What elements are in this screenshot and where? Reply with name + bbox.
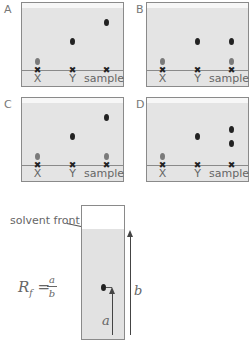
tlc-plate-d: ✖ ✖ ✖ X Y sample <box>146 97 249 182</box>
spot-y <box>195 38 200 45</box>
distance-b-arrow <box>130 236 131 335</box>
spot-sample <box>229 38 234 45</box>
panel-label-a: A <box>4 3 12 16</box>
solvent-front-label: solvent front <box>10 214 80 227</box>
spot-sample <box>229 126 234 133</box>
lane-label-sample: sample <box>84 167 124 180</box>
spot-sample <box>104 19 109 26</box>
spot-sample <box>104 114 109 121</box>
formula-r: R <box>18 278 29 296</box>
fraction-denominator: b <box>47 288 57 299</box>
spot-y <box>70 133 75 140</box>
distance-a-label: a <box>102 313 110 328</box>
spot-sample <box>104 153 109 160</box>
solvent-front-band <box>147 3 248 8</box>
panel-label-c: C <box>4 98 12 111</box>
panel-label-d: D <box>136 98 144 111</box>
spot-sample <box>229 140 234 147</box>
lane-label-y: Y <box>67 72 78 85</box>
lane-label-x: X <box>157 72 168 85</box>
spot-y <box>70 38 75 45</box>
fraction-numerator: a <box>47 274 57 285</box>
panel-label-b: B <box>136 3 144 16</box>
spot-x <box>35 58 40 65</box>
tlc-plate-b: ✖ ✖ ✖ X Y sample <box>146 2 249 87</box>
lane-label-x: X <box>32 72 43 85</box>
lane-label-sample: sample <box>209 167 249 180</box>
fraction-bar <box>47 286 57 287</box>
lane-label-x: X <box>157 167 168 180</box>
spot-y <box>195 133 200 140</box>
lane-label-x: X <box>32 167 43 180</box>
spot-x <box>35 153 40 160</box>
spot-sample <box>229 58 234 65</box>
solvent-front-band <box>22 3 123 8</box>
tlc-plate-a: ✖ ✖ ✖ X Y sample <box>21 2 124 87</box>
spot-x <box>160 153 165 160</box>
distance-a-arrow <box>112 292 113 335</box>
rf-fraction: a b <box>47 274 57 299</box>
arrowhead-b-icon <box>127 230 133 237</box>
lane-label-y: Y <box>192 72 203 85</box>
lane-label-y: Y <box>67 167 78 180</box>
distance-b-label: b <box>134 283 142 298</box>
rf-formula: Rf = <box>18 278 50 298</box>
solvent-front-band <box>22 98 123 103</box>
arrowhead-a-icon <box>109 287 115 294</box>
lane-label-y: Y <box>192 167 203 180</box>
lane-label-sample: sample <box>84 72 124 85</box>
tlc-plate-c: ✖ ✖ ✖ X Y sample <box>21 97 124 182</box>
lane-label-sample: sample <box>209 72 249 85</box>
solvent-front-band <box>147 98 248 103</box>
spot-x <box>160 58 165 65</box>
